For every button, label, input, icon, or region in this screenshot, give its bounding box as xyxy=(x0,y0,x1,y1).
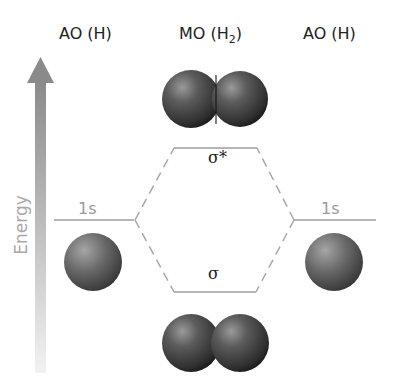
hydrogen-atom-left-icon xyxy=(64,233,122,291)
ao-left-1s-label: 1s xyxy=(78,199,97,218)
h2-antibonding-orbital-icon xyxy=(162,70,268,128)
ao-right-1s-label: 1s xyxy=(321,199,340,218)
mo-diagram-canvas xyxy=(0,0,394,391)
header-mo-subscript: 2 xyxy=(229,33,236,46)
header-ao-right: AO (H) xyxy=(303,24,356,43)
header-mo-text: MO (H xyxy=(179,24,229,43)
h2-bonding-orbital-icon xyxy=(162,314,269,372)
energy-arrow-icon xyxy=(27,57,54,373)
hydrogen-atom-right-icon xyxy=(305,233,363,291)
energy-axis-label: Energy xyxy=(11,195,31,255)
bonding-sigma-label: σ xyxy=(208,264,219,283)
header-mo-close: ) xyxy=(236,24,242,43)
antibonding-sigma-star-label: σ* xyxy=(208,148,227,167)
header-mo-h2: MO (H2) xyxy=(179,24,242,46)
header-ao-left: AO (H) xyxy=(59,24,112,43)
